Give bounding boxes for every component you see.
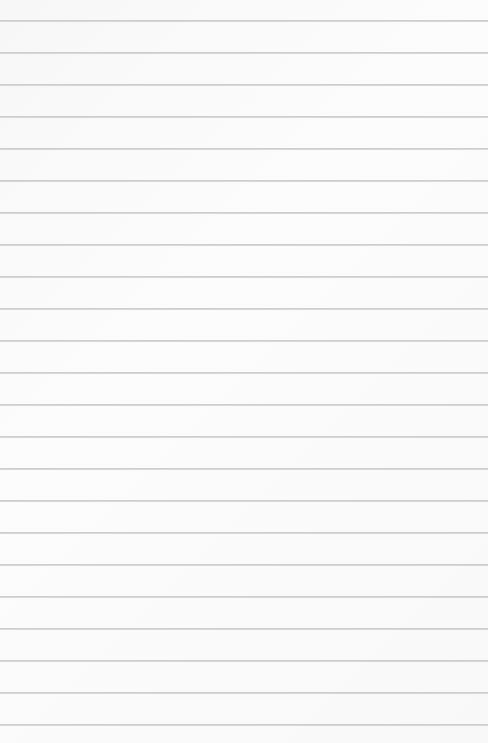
ruled-line xyxy=(0,564,488,566)
ruled-line xyxy=(0,500,488,502)
ruled-line xyxy=(0,724,488,726)
ruled-line xyxy=(0,52,488,54)
ruled-line xyxy=(0,532,488,534)
ruled-line xyxy=(0,468,488,470)
ruled-line xyxy=(0,596,488,598)
ruled-line xyxy=(0,20,488,22)
ruled-line xyxy=(0,660,488,662)
ruled-line xyxy=(0,148,488,150)
ruled-line xyxy=(0,404,488,406)
ruled-line xyxy=(0,116,488,118)
ruled-line xyxy=(0,84,488,86)
ruled-line xyxy=(0,372,488,374)
ruled-line xyxy=(0,180,488,182)
ruled-line xyxy=(0,340,488,342)
ruled-line xyxy=(0,692,488,694)
ruled-line xyxy=(0,276,488,278)
lined-paper xyxy=(0,0,488,743)
ruled-line xyxy=(0,212,488,214)
ruled-line xyxy=(0,628,488,630)
ruled-line xyxy=(0,308,488,310)
ruled-line xyxy=(0,436,488,438)
ruled-line xyxy=(0,244,488,246)
